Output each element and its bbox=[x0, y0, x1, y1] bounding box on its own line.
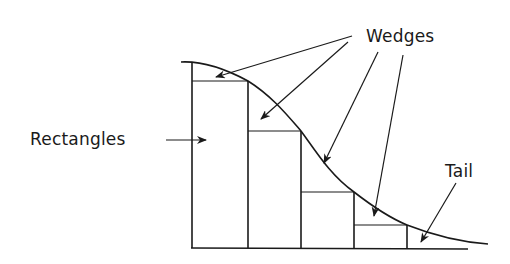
rectangles-group bbox=[192, 62, 407, 249]
baseline-axis bbox=[191, 248, 468, 249]
wedge-arrow-2 bbox=[261, 42, 348, 119]
wedges-arrows bbox=[216, 36, 403, 216]
tail-arrow bbox=[421, 183, 456, 242]
wedges-label: Wedges bbox=[366, 28, 434, 45]
wedge-arrow-4 bbox=[374, 55, 403, 216]
tail-label: Tail bbox=[445, 163, 473, 180]
bell-curve bbox=[181, 62, 488, 244]
wedge-arrow-3 bbox=[324, 52, 378, 163]
rectangles-label: Rectangles bbox=[30, 131, 126, 148]
